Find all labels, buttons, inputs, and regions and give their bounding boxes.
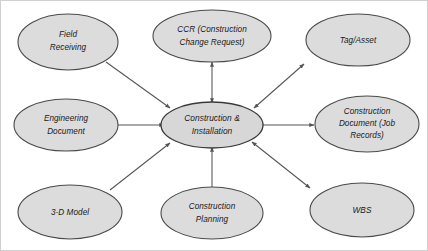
node-construction-installation-label-line1: Construction & — [184, 113, 240, 123]
connector-center-to-wbs — [252, 142, 310, 188]
node-construction-planning-label-line1: Construction — [189, 202, 236, 211]
node-construction-installation-label-line2: Installation — [192, 126, 233, 136]
diagram-canvas: Field Receiving CCR (Construction Change… — [0, 0, 428, 251]
node-tag-asset-label-line1: Tag/Asset — [340, 36, 377, 45]
node-ccr-shape[interactable] — [153, 10, 271, 62]
node-ccr-label-line2: Change Request) — [180, 38, 245, 47]
node-construction-planning[interactable]: Construction Planning — [161, 187, 263, 239]
node-three-d-model[interactable]: 3-D Model — [18, 185, 122, 239]
node-construction-document-label-line1: Construction — [344, 107, 391, 116]
node-ccr[interactable]: CCR (Construction Change Request) — [153, 10, 271, 62]
node-engineering-document-label-line1: Engineering — [44, 114, 89, 123]
node-engineering-document-shape[interactable] — [14, 99, 118, 151]
node-construction-document-label-line3: Records) — [350, 131, 384, 140]
node-wbs-label-line1: WBS — [353, 206, 372, 215]
node-construction-document-label-line2: Document (Job — [339, 119, 396, 128]
node-engineering-document-label-line2: Document — [47, 127, 85, 136]
node-construction-planning-label-line2: Planning — [196, 215, 229, 224]
connector-center-to-tag-asset — [254, 64, 304, 108]
relationship-diagram: Field Receiving CCR (Construction Change… — [0, 0, 428, 251]
node-construction-document[interactable]: Construction Document (Job Records) — [315, 96, 419, 152]
connector-three-d-model-to-center — [110, 143, 170, 190]
node-field-receiving-label-line1: Field — [59, 30, 77, 39]
node-field-receiving-label-line2: Receiving — [50, 43, 87, 52]
node-field-receiving[interactable]: Field Receiving — [18, 14, 118, 70]
node-ccr-label-line1: CCR (Construction — [177, 25, 247, 34]
node-tag-asset[interactable]: Tag/Asset — [306, 14, 410, 66]
node-construction-installation-shape[interactable] — [161, 102, 263, 148]
node-construction-installation[interactable]: Construction & Installation — [161, 102, 263, 148]
connector-field-receiving-to-center — [106, 62, 170, 108]
node-wbs[interactable]: WBS — [310, 183, 414, 237]
node-construction-planning-shape[interactable] — [161, 187, 263, 239]
node-engineering-document[interactable]: Engineering Document — [14, 99, 118, 151]
node-field-receiving-shape[interactable] — [18, 14, 118, 70]
node-three-d-model-label-line1: 3-D Model — [51, 208, 89, 217]
